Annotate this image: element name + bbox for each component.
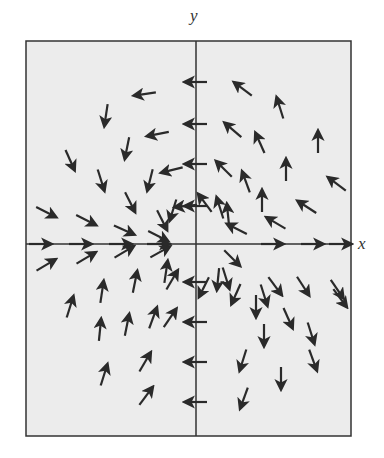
- plot-frame: [26, 41, 351, 436]
- x-axis-label: x: [358, 234, 366, 254]
- vector-field-plot: [0, 0, 384, 458]
- y-axis-label: y: [190, 6, 198, 26]
